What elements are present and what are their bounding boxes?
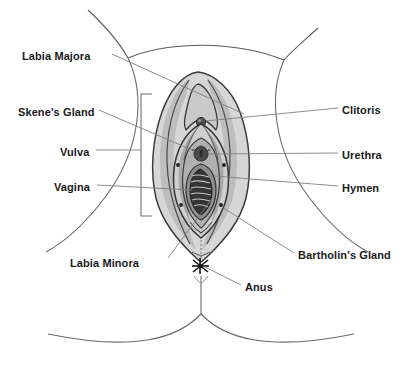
label-labia-minora: Labia Minora [70, 257, 139, 269]
leader-anus [205, 267, 241, 285]
vulva-extent-bracket [141, 94, 152, 216]
label-vulva: Vulva [60, 146, 89, 158]
upper-right-thigh-line [284, 28, 318, 60]
bartholin-dot-lower-right [219, 203, 223, 207]
mons-pubis-curve [128, 45, 284, 60]
left-skene-gland-mark [192, 149, 194, 151]
bartholin-dot-upper-left [176, 163, 180, 167]
lower-left-buttock-curve [48, 314, 201, 342]
bartholin-dot-upper-right [222, 163, 226, 167]
label-skenes-gland: Skene's Gland [18, 106, 95, 118]
upper-left-thigh-line [88, 10, 128, 58]
label-vagina: Vagina [54, 181, 90, 193]
bartholin-dot-lower-left [179, 203, 183, 207]
label-anus: Anus [245, 281, 273, 293]
anal-orifice [198, 264, 202, 268]
urethral-meatus-slit [199, 150, 202, 157]
bracket-path [141, 94, 152, 216]
label-urethra: Urethra [342, 149, 382, 161]
leader-bartholins-gland [222, 207, 294, 253]
anatomy-diagram: Labia Majora Skene's Gland Vulva Vagina … [0, 0, 404, 377]
lower-right-buttock-curve [201, 314, 354, 342]
label-labia-majora: Labia Majora [22, 50, 90, 62]
label-hymen: Hymen [342, 182, 379, 194]
clitoris-glans-highlight [198, 119, 201, 122]
right-skene-gland-mark [208, 149, 210, 151]
label-bartholins-gland: Bartholin's Gland [298, 249, 391, 261]
label-clitoris: Clitoris [342, 104, 381, 116]
